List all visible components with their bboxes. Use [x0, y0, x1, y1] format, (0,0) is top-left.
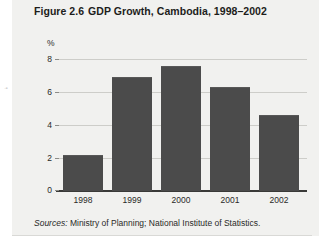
x-tick-label-1998: 1998	[63, 195, 103, 205]
tick-4	[55, 125, 59, 126]
y-tick-label-8: 8	[47, 59, 52, 60]
y-axis-unit-label: %	[47, 38, 55, 48]
figure-number: Figure 2.6	[34, 5, 84, 17]
y-tick-label-6: 6	[47, 92, 52, 93]
figure-title-text: GDP Growth, Cambodia, 1998–2002	[88, 5, 267, 17]
tick-6	[55, 92, 59, 93]
figure-title: Figure 2.6GDP Growth, Cambodia, 1998–200…	[34, 5, 319, 17]
x-tick-label-1999: 1999	[112, 195, 152, 205]
bar-2000[interactable]	[161, 66, 201, 191]
panel-bottom-rule	[12, 235, 312, 236]
source-label: Sources:	[34, 218, 68, 228]
bar-2002[interactable]	[259, 115, 299, 191]
figure-page: ·▪ Figure 2.6GDP Growth, Cambodia, 1998–…	[0, 0, 319, 249]
bar-2001[interactable]	[210, 87, 250, 191]
bar-1998[interactable]	[63, 155, 103, 191]
figure-source-note: Sources: Ministry of Planning; National …	[34, 218, 260, 228]
y-tick-label-2: 2	[47, 158, 52, 159]
y-tick-label-4: 4	[47, 125, 52, 126]
x-tick-label-2002: 2002	[259, 195, 299, 205]
plot-area: 8 6 4 2 0 1998 1999 2000 2001 2002	[59, 56, 307, 191]
y-tick-label-0: 0	[47, 190, 52, 191]
bar-1999[interactable]	[112, 77, 152, 191]
page-left-margin: ·▪	[0, 0, 12, 249]
margin-mark: ·▪	[4, 86, 10, 90]
tick-2	[55, 158, 59, 159]
gridline-8	[59, 59, 307, 60]
figure-panel: Figure 2.6GDP Growth, Cambodia, 1998–200…	[12, 0, 319, 236]
tick-8	[55, 59, 59, 60]
tick-0	[55, 190, 59, 191]
x-tick-label-2000: 2000	[161, 195, 201, 205]
x-tick-label-2001: 2001	[210, 195, 250, 205]
source-text: Ministry of Planning; National Institute…	[68, 218, 261, 228]
